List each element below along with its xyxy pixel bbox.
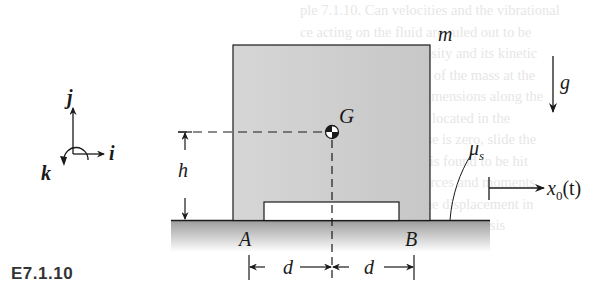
mass-label: m bbox=[438, 24, 452, 44]
coordinate-axes-icon bbox=[60, 108, 104, 166]
half-width-right-label: d bbox=[364, 257, 374, 277]
center-of-mass-icon bbox=[326, 126, 339, 139]
height-label: h bbox=[178, 160, 188, 180]
friction-label: μs bbox=[469, 138, 484, 162]
ground-fill bbox=[171, 220, 490, 252]
corner-b-label: B bbox=[405, 229, 417, 249]
figure-caption: E7.1.10 bbox=[11, 264, 73, 284]
gravity-label: g bbox=[560, 72, 570, 92]
center-of-mass-label: G bbox=[339, 106, 354, 127]
displacement-label: x0(t) bbox=[547, 178, 581, 202]
axis-i-label: i bbox=[109, 143, 115, 163]
displacement-arrow-icon bbox=[489, 177, 544, 200]
displacement-argument: (t) bbox=[562, 177, 581, 199]
friction-subscript: s bbox=[479, 148, 484, 163]
friction-symbol: μ bbox=[469, 137, 479, 159]
corner-a-label: A bbox=[239, 229, 251, 249]
block-on-ground-diagram bbox=[0, 0, 609, 299]
axis-k-label: k bbox=[41, 163, 51, 183]
half-width-left-label: d bbox=[283, 257, 293, 277]
ground bbox=[171, 220, 490, 252]
friction-leader-line bbox=[450, 155, 471, 220]
displacement-symbol: x bbox=[547, 177, 556, 199]
axis-j-label: j bbox=[67, 87, 73, 107]
